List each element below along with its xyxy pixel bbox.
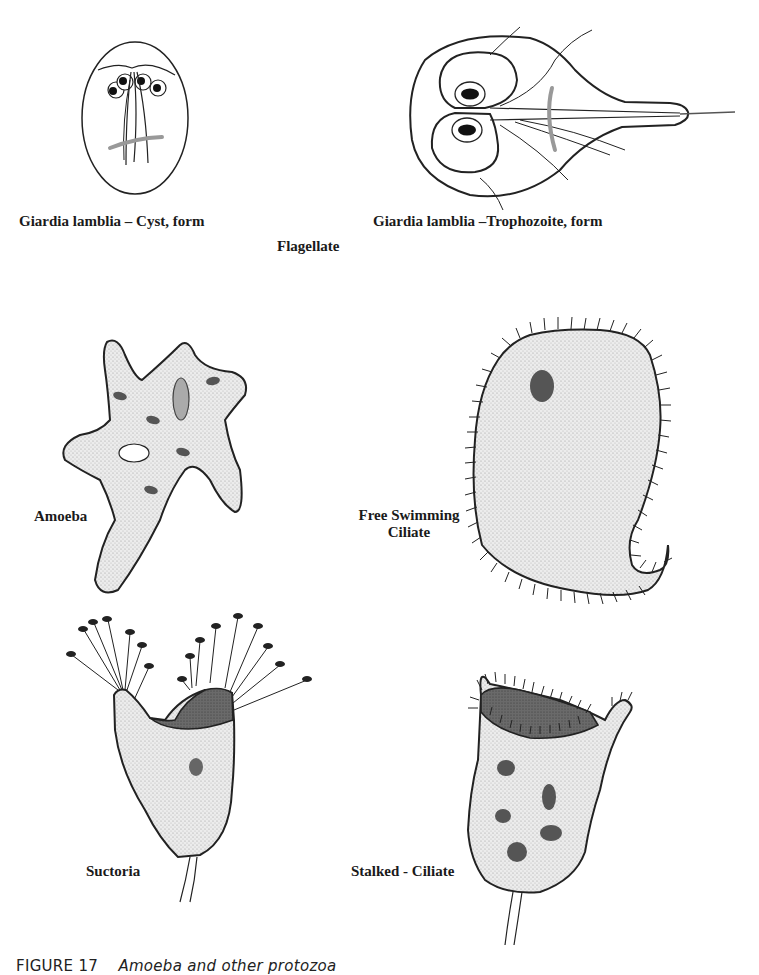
label-amoeba: Amoeba: [34, 508, 87, 525]
label-flagellate-group: Flagellate: [277, 238, 339, 255]
nucleus-icon: [530, 370, 554, 402]
suctoria-drawing: [66, 613, 312, 902]
label-giardia-trophozoite: Giardia lamblia –Trophozoite, form: [373, 213, 602, 230]
label-giardia-cyst: Giardia lamblia – Cyst, form: [19, 213, 204, 230]
nucleus-icon: [189, 758, 203, 776]
figure-caption-text: Amoeba and other protozoa: [118, 957, 336, 975]
label-line-1: Free Swimming: [344, 507, 474, 524]
amoeba-drawing: [63, 341, 246, 593]
label-stalked-ciliate: Stalked - Ciliate: [351, 863, 454, 880]
stalked-ciliate-drawing: [468, 672, 632, 945]
label-free-swimming-ciliate: Free Swimming Ciliate: [344, 507, 474, 541]
giardia-trophozoite-drawing: [410, 27, 735, 210]
figure-number: FIGURE 17: [16, 957, 98, 975]
free-swimming-ciliate-drawing: [465, 317, 672, 604]
tentacle-knobs: [66, 613, 312, 682]
giardia-cyst-drawing: [82, 42, 188, 194]
label-line-2: Ciliate: [344, 524, 474, 541]
figure-caption: FIGURE 17 Amoeba and other protozoa: [16, 957, 337, 975]
label-suctoria: Suctoria: [86, 863, 140, 880]
